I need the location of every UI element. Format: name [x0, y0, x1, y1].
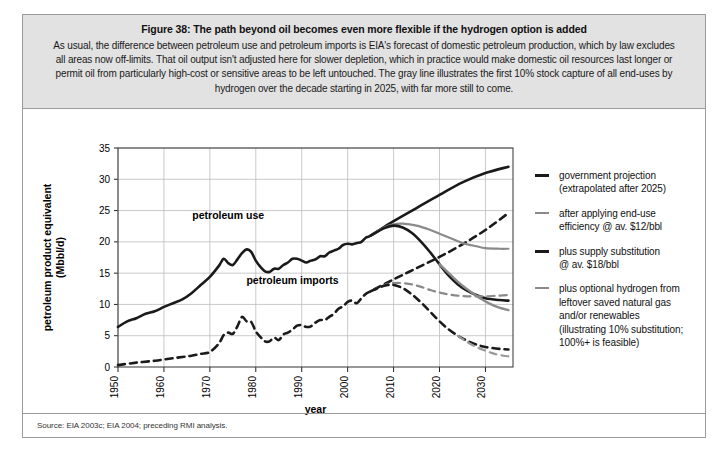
chart-legend: government projection (extrapolated afte…	[535, 169, 713, 360]
y-tick-label: 20	[99, 236, 111, 247]
legend-label-government-projection: government projection (extrapolated afte…	[559, 169, 713, 196]
legend-label-line: and/or renewables	[559, 309, 713, 322]
x-tick-label: 2030	[476, 376, 487, 399]
legend-label-line: leftover saved natural gas	[559, 296, 713, 309]
series-annotation-0: petroleum use	[192, 209, 264, 221]
legend-swatch-optional-hydrogen	[535, 287, 549, 289]
figure-subtitle: As usual, the difference between petrole…	[49, 39, 679, 96]
figure-title: Figure 38: The path beyond oil becomes e…	[49, 23, 679, 36]
x-tick-label: 2000	[339, 376, 350, 399]
source-note: Source: EIA 2003c; EIA 2004; preceding R…	[23, 414, 705, 430]
figure-caption-band: Figure 38: The path beyond oil becomes e…	[23, 15, 705, 109]
legend-item-end-use-efficiency[interactable]: after applying end-use efficiency @ av. …	[535, 207, 713, 234]
chart-body: 0510152025303519501960197019801990200020…	[23, 109, 705, 415]
legend-label-line: plus optional hydrogen from	[559, 282, 713, 295]
legend-label-line: (extrapolated after 2025)	[559, 182, 713, 195]
legend-label-line: plus supply substitution	[559, 245, 713, 258]
legend-label-supply-substitution: plus supply substitution @ av. $18/bbl	[559, 245, 713, 272]
series-annotation-1: petroleum imports	[246, 274, 338, 286]
legend-item-optional-hydrogen[interactable]: plus optional hydrogen from leftover sav…	[535, 282, 713, 349]
source-band: Source: EIA 2003c; EIA 2004; preceding R…	[23, 413, 705, 437]
legend-swatch-government-projection	[535, 174, 549, 177]
legend-item-supply-substitution[interactable]: plus supply substitution @ av. $18/bbl	[535, 245, 713, 272]
figure-container: Figure 38: The path beyond oil becomes e…	[22, 14, 706, 438]
y-axis-title-line: (Mbbl/d)	[54, 237, 66, 278]
legend-label-optional-hydrogen: plus optional hydrogen from leftover sav…	[559, 282, 713, 349]
y-tick-label: 25	[99, 205, 111, 216]
x-tick-label: 2020	[431, 376, 442, 399]
legend-label-line: (illustrating 10% substitution;	[559, 323, 713, 336]
legend-label-end-use-efficiency: after applying end-use efficiency @ av. …	[559, 207, 713, 234]
y-tick-label: 35	[99, 143, 111, 154]
y-tick-label: 15	[99, 268, 111, 279]
x-tick-label: 1960	[155, 376, 166, 399]
legend-label-line: efficiency @ av. $12/bbl	[559, 220, 713, 233]
legend-label-line: after applying end-use	[559, 207, 713, 220]
legend-item-government-projection[interactable]: government projection (extrapolated afte…	[535, 169, 713, 196]
y-tick-label: 10	[99, 299, 111, 310]
x-tick-label: 2010	[385, 376, 396, 399]
y-tick-label: 30	[99, 174, 111, 185]
y-axis-title: petroleum product equivalent(Mbbl/d)	[41, 183, 66, 331]
x-tick-label: 1970	[201, 376, 212, 399]
y-tick-label: 5	[104, 330, 110, 341]
x-tick-label: 1980	[247, 376, 258, 399]
x-tick-label: 1950	[109, 376, 120, 399]
legend-label-line: 100%+ is feasible)	[559, 336, 713, 349]
y-tick-label: 0	[104, 362, 110, 373]
legend-swatch-end-use-efficiency	[535, 212, 549, 214]
x-tick-label: 1990	[293, 376, 304, 399]
legend-swatch-supply-substitution	[535, 250, 549, 253]
legend-label-line: @ av. $18/bbl	[559, 258, 713, 271]
y-axis-title-line: petroleum product equivalent	[41, 183, 53, 331]
legend-label-line: government projection	[559, 169, 713, 182]
